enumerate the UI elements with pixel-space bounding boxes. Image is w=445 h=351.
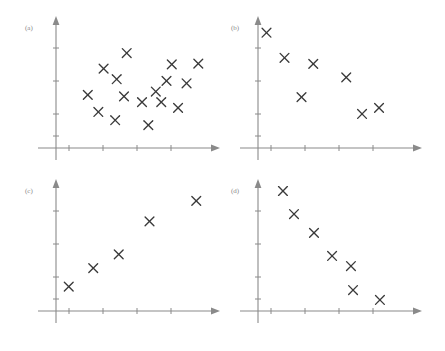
panel-a-label: (a): [25, 24, 33, 32]
panel-d-label: (d): [231, 187, 240, 195]
panel-c-label: (c): [25, 187, 33, 195]
scatter-plot-figure: (a) (b): [0, 0, 445, 351]
panel-b-label: (b): [231, 24, 240, 32]
